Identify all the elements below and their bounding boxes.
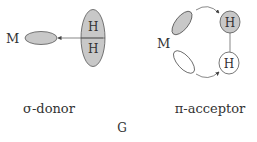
metal-label: M xyxy=(6,31,19,46)
pi-acceptor-caption: π-acceptor xyxy=(175,101,246,116)
sigma-donor-panel: M H H σ-donor xyxy=(6,10,105,117)
h-bottom-label: H xyxy=(224,57,234,71)
bottom-backbond-arrow xyxy=(196,72,219,78)
metal-d-orbital-empty-lobe xyxy=(170,47,198,77)
pi-acceptor-panel: M H H π-acceptor xyxy=(157,7,246,116)
figure-label: G xyxy=(117,121,127,135)
metal-d-orbital-filled-lobe xyxy=(168,8,195,38)
h-top-label: H xyxy=(225,16,235,30)
metal-label: M xyxy=(157,36,170,51)
metal-d-orbital xyxy=(25,32,57,45)
h-top-label: H xyxy=(88,20,98,34)
h-bottom-label: H xyxy=(88,42,98,56)
sigma-donor-caption: σ-donor xyxy=(23,101,76,116)
orbital-diagram: M H H σ-donor M H H π-acceptor G xyxy=(0,0,257,142)
top-backbond-arrow xyxy=(196,7,219,13)
